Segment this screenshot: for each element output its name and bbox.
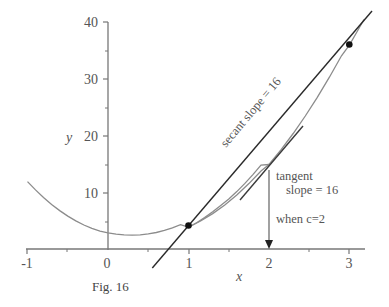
y-tick-10: 10	[84, 186, 98, 201]
when-c-label: when c=2	[276, 212, 325, 226]
figure-caption: Fig. 16	[92, 279, 129, 294]
secant-label: secant slope = 16	[218, 75, 284, 150]
x-tick-3: 3	[346, 256, 353, 271]
x-axis	[26, 249, 365, 254]
y-tick-40: 40	[84, 15, 98, 30]
secant-line	[152, 11, 372, 268]
x-tick-0: 0	[104, 256, 111, 271]
arrow-head-icon	[265, 240, 273, 249]
y-tick-20: 20	[84, 129, 98, 144]
point-1-4	[185, 222, 192, 229]
x-tick-2: 2	[266, 256, 273, 271]
tangent-label: tangent	[276, 169, 313, 183]
point-3-36	[346, 41, 353, 48]
y-tick-30: 30	[84, 72, 98, 87]
y-axis	[103, 22, 108, 250]
x-axis-label: x	[235, 269, 243, 284]
x-tick-1: 1	[186, 256, 193, 271]
y-axis-label: y	[64, 130, 73, 145]
parabola-curve-right	[189, 165, 270, 228]
chart-figure: 40 30 20 10 y -1 0 1 2 3 x secant slope …	[0, 0, 389, 307]
tangent-slope-label: slope = 16	[286, 183, 338, 197]
x-tick-neg1: -1	[21, 256, 33, 271]
